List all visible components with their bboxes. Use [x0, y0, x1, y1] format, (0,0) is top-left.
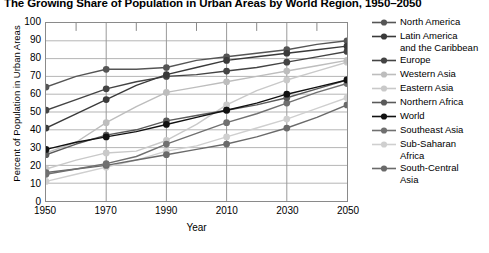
- x-axis-title: Year: [45, 222, 348, 233]
- data-point: [223, 68, 230, 75]
- legend-item[interactable]: Northern Africa: [371, 96, 489, 109]
- data-point: [46, 107, 49, 114]
- legend-item[interactable]: Europe: [371, 54, 489, 67]
- data-point: [163, 71, 170, 78]
- data-point: [283, 68, 290, 75]
- x-axis-tick-labels: 195019701990201020302050: [45, 205, 348, 221]
- legend-item-label: South-Central Asia: [397, 162, 459, 185]
- legend-marker-icon: [371, 162, 397, 175]
- y-tick-label: 90: [1, 34, 41, 45]
- x-tick-label: 2030: [262, 205, 312, 216]
- data-point: [223, 119, 230, 126]
- plot-area: [45, 22, 348, 202]
- y-tick-label: 10: [1, 178, 41, 189]
- data-point: [46, 125, 49, 132]
- legend-marker-icon: [371, 30, 397, 43]
- legend-marker-icon: [371, 96, 397, 109]
- legend-item-label: Sub-Saharan Africa: [397, 138, 456, 161]
- data-point: [46, 178, 49, 185]
- data-point: [163, 121, 170, 128]
- data-point: [103, 66, 110, 73]
- legend-item[interactable]: Southeast Asia: [371, 124, 489, 137]
- y-tick-label: 60: [1, 88, 41, 99]
- legend-marker-icon: [371, 16, 397, 29]
- legend-item-label: Europe: [397, 54, 431, 66]
- legend-item-label: Eastern Asia: [397, 82, 453, 94]
- legend-marker-icon: [371, 82, 397, 95]
- legend-item[interactable]: Eastern Asia: [371, 82, 489, 95]
- data-point: [283, 59, 290, 66]
- x-tick-label: 1970: [81, 205, 131, 216]
- y-tick-label: 50: [1, 106, 41, 117]
- legend-item[interactable]: Sub-Saharan Africa: [371, 138, 489, 161]
- data-point: [283, 125, 290, 132]
- y-tick-label: 100: [1, 16, 41, 27]
- series-line: [46, 48, 347, 113]
- plot-wrapper: Percent of Population in Urban Areas 010…: [0, 0, 370, 253]
- y-tick-label: 80: [1, 52, 41, 63]
- legend-item-label: Northern Africa: [397, 96, 463, 108]
- data-point: [163, 141, 170, 148]
- legend-item[interactable]: Latin America and the Caribbean: [371, 30, 489, 53]
- data-point: [163, 64, 170, 71]
- data-point: [223, 134, 230, 141]
- data-point: [344, 43, 347, 50]
- x-tick-label: 1990: [141, 205, 191, 216]
- data-point: [223, 78, 230, 85]
- x-tick-label: 1950: [20, 205, 70, 216]
- data-point: [223, 107, 230, 114]
- data-point: [103, 134, 110, 141]
- data-point: [103, 96, 110, 103]
- data-point: [163, 151, 170, 158]
- data-point: [283, 116, 290, 123]
- data-point: [223, 141, 230, 148]
- chart-legend: North AmericaLatin America and the Carib…: [371, 16, 489, 186]
- legend-item[interactable]: South-Central Asia: [371, 162, 489, 185]
- data-point: [344, 102, 347, 109]
- series-line: [46, 102, 347, 176]
- data-point: [46, 84, 49, 91]
- data-point: [223, 57, 230, 64]
- legend-item-label: Western Asia: [397, 68, 456, 80]
- legend-item[interactable]: Western Asia: [371, 68, 489, 81]
- data-point: [103, 160, 110, 167]
- x-tick-label: 2050: [323, 205, 373, 216]
- y-tick-label: 30: [1, 142, 41, 153]
- legend-item[interactable]: North America: [371, 16, 489, 29]
- legend-item-label: World: [397, 110, 425, 122]
- data-point: [103, 85, 110, 92]
- x-tick-label: 2010: [202, 205, 252, 216]
- series-line: [46, 37, 347, 90]
- legend-marker-icon: [371, 124, 397, 137]
- legend-item[interactable]: World: [371, 110, 489, 123]
- y-axis-tick-labels: 0102030405060708090100: [0, 22, 41, 202]
- legend-marker-icon: [371, 110, 397, 123]
- chart-canvas: [46, 23, 347, 201]
- y-tick-label: 40: [1, 124, 41, 135]
- y-tick-label: 70: [1, 70, 41, 81]
- data-point: [103, 119, 110, 126]
- legend-item-label: Southeast Asia: [397, 124, 463, 136]
- legend-marker-icon: [371, 68, 397, 81]
- data-point: [283, 91, 290, 98]
- data-point: [103, 150, 110, 157]
- legend-marker-icon: [371, 138, 397, 151]
- data-point: [283, 50, 290, 57]
- series-line: [46, 77, 347, 153]
- legend-marker-icon: [371, 54, 397, 67]
- data-point: [163, 89, 170, 96]
- legend-item-label: North America: [397, 16, 460, 28]
- y-tick-label: 20: [1, 160, 41, 171]
- legend-item-label: Latin America and the Caribbean: [397, 30, 478, 53]
- data-point: [344, 94, 347, 101]
- chart-root: The Growing Share of Population in Urban…: [0, 0, 489, 253]
- data-point: [283, 77, 290, 84]
